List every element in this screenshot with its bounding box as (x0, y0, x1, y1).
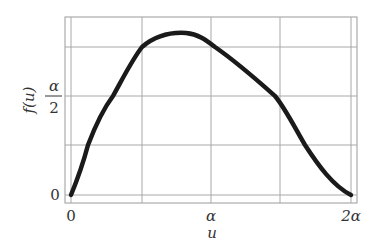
x-tick-2alpha: 2α (340, 207, 361, 225)
y-tick-0: 0 (50, 186, 60, 204)
y-axis-label: f(u) (20, 86, 38, 114)
y-tick-half-denominator: 2 (49, 99, 59, 117)
x-tick-alpha: α (206, 207, 216, 225)
chart: 0 α 2 f(u) 0 α 2α u (0, 0, 370, 249)
y-tick-half-numerator: α (49, 77, 59, 95)
x-tick-0: 0 (66, 207, 76, 225)
x-axis-label: u (207, 224, 217, 242)
